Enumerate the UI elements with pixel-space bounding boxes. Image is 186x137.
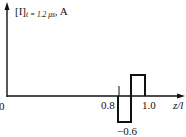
origin-label: 0	[0, 100, 5, 112]
negative-pulse	[118, 96, 131, 122]
chart-title: [I]t = 1.2 μs, A	[15, 5, 68, 21]
y-axis-arrow-icon	[5, 2, 10, 10]
title-unit: , A	[55, 5, 68, 17]
title-subscript-text: t = 1.2 μs	[26, 10, 55, 19]
positive-pulse	[131, 75, 145, 96]
title-main: [I]	[15, 5, 26, 17]
x-axis-arrow-icon	[177, 94, 185, 99]
tick-label-08: 0.8	[101, 99, 115, 111]
title-subscript: t = 1.2 μs	[26, 10, 55, 19]
negative-value-label: −0.6	[117, 125, 137, 137]
tick-label-10: 1.0	[142, 99, 156, 111]
x-axis-label: z/l	[173, 99, 183, 111]
